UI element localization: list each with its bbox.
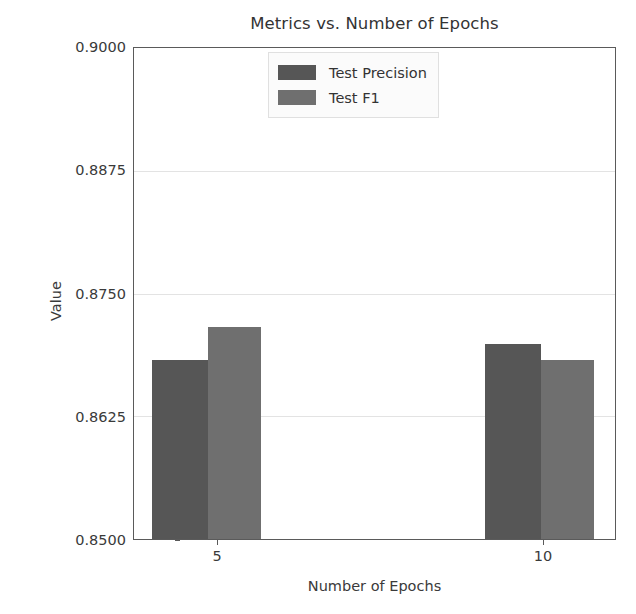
x-axis-label: Number of Epochs xyxy=(133,578,616,594)
x-tick-mark xyxy=(543,540,544,545)
y-tick-label: 0.9000 xyxy=(54,39,126,55)
y-tick-label: 0.8750 xyxy=(54,286,126,302)
plot-area xyxy=(133,47,616,540)
chart-figure: Metrics vs. Number of Epochs 0.8500 0.86… xyxy=(0,0,636,614)
gridline xyxy=(134,171,615,172)
y-tick-label: 0.8500 xyxy=(54,532,126,548)
bar-precision-10 xyxy=(485,344,541,539)
legend-item-f1: Test F1 xyxy=(278,85,427,110)
x-tick-label: 10 xyxy=(498,548,588,564)
bar-precision-5 xyxy=(152,360,208,539)
legend-label-precision: Test Precision xyxy=(329,65,427,81)
legend-swatch-precision xyxy=(278,65,316,80)
x-tick-label: 5 xyxy=(172,548,262,564)
y-tick-label: 0.8625 xyxy=(54,409,126,425)
page-title: Metrics vs. Number of Epochs xyxy=(133,14,616,33)
y-tick-label: 0.8875 xyxy=(54,162,126,178)
gridline xyxy=(134,294,615,295)
legend-swatch-f1 xyxy=(278,90,316,105)
bar-f1-10 xyxy=(541,360,594,539)
y-axis-label: Value xyxy=(48,241,64,361)
legend: Test Precision Test F1 xyxy=(268,52,439,118)
bar-f1-5 xyxy=(208,327,261,539)
x-tick-mark xyxy=(217,540,218,545)
legend-item-precision: Test Precision xyxy=(278,60,427,85)
legend-label-f1: Test F1 xyxy=(329,90,380,106)
